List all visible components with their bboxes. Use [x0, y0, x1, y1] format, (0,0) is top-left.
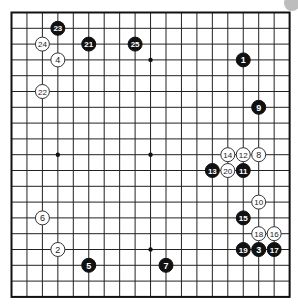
black-stone: 17	[267, 243, 281, 257]
move-number: 10	[254, 198, 263, 207]
move-number: 15	[239, 214, 248, 223]
black-stone: 13	[205, 164, 219, 178]
star-point	[148, 153, 152, 157]
black-stone: 3	[252, 243, 266, 257]
move-number: 5	[86, 261, 91, 271]
black-stone: 1	[236, 53, 250, 67]
white-stone: 18	[252, 227, 266, 241]
white-stone: 22	[35, 85, 49, 99]
move-number: 23	[53, 24, 62, 33]
move-number: 7	[163, 261, 168, 271]
star-point	[148, 58, 152, 62]
white-stone: 10	[252, 195, 266, 209]
black-stone: 7	[159, 258, 173, 272]
move-number: 17	[270, 246, 279, 255]
move-number: 13	[208, 167, 217, 176]
corner-indicator-icon	[284, 0, 298, 11]
move-number: 12	[239, 151, 248, 160]
black-stone: 23	[51, 21, 65, 35]
move-number: 16	[270, 230, 279, 239]
move-number: 21	[84, 40, 93, 49]
move-number: 8	[256, 150, 261, 160]
go-board: 1234567891011121314151617181920212223242…	[0, 0, 298, 306]
move-number: 4	[55, 55, 60, 65]
move-number: 3	[256, 245, 261, 255]
white-stone: 24	[35, 37, 49, 51]
white-stone: 8	[252, 148, 266, 162]
white-stone: 4	[51, 53, 65, 67]
move-number: 25	[131, 40, 140, 49]
move-number: 2	[55, 245, 60, 255]
star-point	[56, 153, 60, 157]
move-number: 11	[239, 167, 248, 176]
white-stone: 14	[221, 148, 235, 162]
black-stone: 9	[252, 100, 266, 114]
move-number: 20	[223, 167, 232, 176]
white-stone: 6	[35, 211, 49, 225]
black-stone: 25	[128, 37, 142, 51]
move-number: 9	[256, 103, 261, 113]
black-stone: 5	[82, 258, 96, 272]
black-stone: 19	[236, 243, 250, 257]
white-stone: 20	[221, 164, 235, 178]
move-number: 1	[241, 55, 246, 65]
move-number: 22	[38, 88, 47, 97]
move-number: 18	[254, 230, 263, 239]
move-number: 19	[239, 246, 248, 255]
move-number: 24	[38, 40, 47, 49]
stones: 1234567891011121314151617181920212223242…	[35, 21, 281, 272]
white-stone: 12	[236, 148, 250, 162]
move-number: 14	[223, 151, 232, 160]
black-stone: 15	[236, 211, 250, 225]
black-stone: 11	[236, 164, 250, 178]
black-stone: 21	[82, 37, 96, 51]
move-number: 6	[40, 213, 45, 223]
white-stone: 16	[267, 227, 281, 241]
star-point	[148, 247, 152, 251]
white-stone: 2	[51, 243, 65, 257]
